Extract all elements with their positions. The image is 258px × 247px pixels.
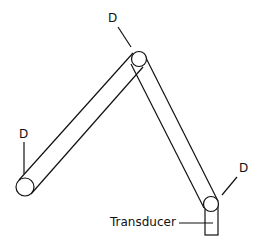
arm-diagram: D D D Transducer xyxy=(0,0,258,247)
right-joint-leader xyxy=(222,177,237,195)
top-joint xyxy=(132,52,147,67)
right-joint xyxy=(204,197,219,212)
top-joint-label: D xyxy=(108,11,117,25)
left-arm-tube xyxy=(19,53,143,194)
left-end-label: D xyxy=(19,127,28,141)
diagram-canvas: D D D Transducer xyxy=(0,0,258,247)
top-joint-leader xyxy=(118,27,131,47)
left-end-joint xyxy=(16,178,34,196)
right-arm-tube xyxy=(131,56,218,208)
right-joint-label: D xyxy=(239,161,248,175)
transducer-label: Transducer xyxy=(109,215,176,229)
